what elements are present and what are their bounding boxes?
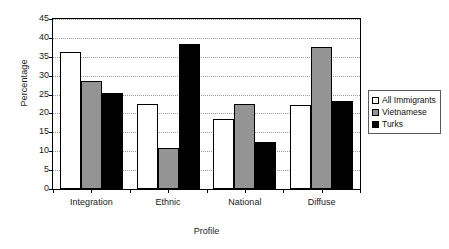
bar bbox=[179, 44, 200, 189]
bar bbox=[290, 105, 311, 189]
x-boundary-tick bbox=[130, 189, 131, 193]
x-tick-mark bbox=[168, 189, 169, 193]
bar bbox=[102, 93, 123, 189]
bar bbox=[213, 119, 234, 189]
y-tick-label: 0 bbox=[25, 184, 49, 193]
y-tick-label: 5 bbox=[25, 165, 49, 174]
bar-group bbox=[283, 19, 360, 189]
legend-label: All Immigrants bbox=[382, 96, 436, 105]
plot-area: 051015202530354045IntegrationEthnicNatio… bbox=[52, 18, 361, 190]
x-boundary-tick bbox=[207, 189, 208, 193]
y-tick-label: 25 bbox=[25, 90, 49, 99]
white-square-icon bbox=[372, 97, 379, 104]
gray-square-icon bbox=[372, 109, 379, 116]
x-boundary-tick bbox=[360, 189, 361, 193]
bar bbox=[137, 104, 158, 189]
y-tick-label: 20 bbox=[25, 108, 49, 117]
y-tick-label: 45 bbox=[25, 14, 49, 23]
chart-legend: All ImmigrantsVietnameseTurks bbox=[368, 90, 441, 134]
y-tick-label: 15 bbox=[25, 127, 49, 136]
y-axis-title: Percentage bbox=[19, 33, 29, 133]
x-axis-title: Profile bbox=[52, 226, 361, 236]
x-tick-mark bbox=[322, 189, 323, 193]
legend-label: Vietnamese bbox=[382, 108, 427, 117]
y-tick-label: 30 bbox=[25, 71, 49, 80]
x-tick-mark bbox=[245, 189, 246, 193]
x-boundary-tick bbox=[283, 189, 284, 193]
bar bbox=[158, 148, 179, 189]
x-tick-mark bbox=[91, 189, 92, 193]
legend-item: All Immigrants bbox=[372, 94, 436, 106]
x-tick-label: Diffuse bbox=[262, 197, 382, 207]
y-tick-label: 40 bbox=[25, 33, 49, 42]
bar bbox=[255, 142, 276, 189]
bar-group bbox=[53, 19, 130, 189]
y-tick-label: 10 bbox=[25, 146, 49, 155]
legend-item: Vietnamese bbox=[372, 106, 436, 118]
legend-label: Turks bbox=[382, 120, 403, 129]
y-tick-label: 35 bbox=[25, 52, 49, 61]
black-square-icon bbox=[372, 121, 379, 128]
legend-item: Turks bbox=[372, 118, 436, 130]
bar-group bbox=[130, 19, 207, 189]
bar bbox=[81, 81, 102, 189]
bar-chart-figure: Percentage 051015202530354045Integration… bbox=[0, 0, 449, 249]
bar bbox=[311, 47, 332, 189]
bar bbox=[332, 101, 353, 189]
bar-group bbox=[207, 19, 284, 189]
x-boundary-tick bbox=[53, 189, 54, 193]
bar bbox=[234, 104, 255, 189]
bar bbox=[60, 52, 81, 189]
